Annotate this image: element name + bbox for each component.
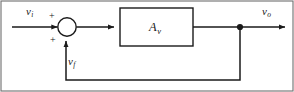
amplifier-gain-label: Av [149,21,161,35]
diagram-canvas [0,0,294,92]
summing-feedback-sign: + [50,35,56,45]
summing-input-sign: + [49,11,55,21]
input-voltage-label: vi [26,6,33,19]
block-diagram-figure: vi vo vf Av + + [0,0,294,92]
output-voltage-label: vo [262,6,271,19]
summing-junction-circle [58,18,76,36]
feedback-voltage-label: vf [68,56,75,69]
